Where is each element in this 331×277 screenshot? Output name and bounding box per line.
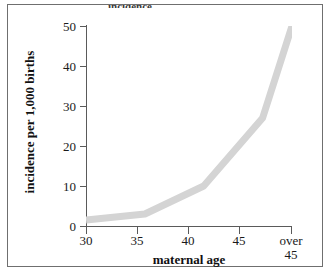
x-tick-label-over-45-line1: over [279, 233, 302, 248]
x-tick-label-40: 40 [166, 234, 210, 248]
incidence-line-series [86, 26, 292, 220]
y-tick-label-40: 40 [50, 60, 76, 73]
x-axis-title: maternal age [86, 253, 292, 267]
y-tick-label-10: 10 [50, 180, 76, 193]
x-axis-line [86, 226, 292, 227]
x-tick-label-35: 35 [115, 234, 159, 248]
x-tick-label-30: 30 [64, 234, 108, 248]
clipped-title-remnant: incidence [108, 5, 168, 8]
y-axis-title: incidence per 1,000 births [23, 37, 37, 207]
chart-figure: incidence 50 40 30 20 10 0 incidence per… [7, 4, 323, 267]
y-tick-label-20: 20 [50, 140, 76, 153]
y-tick-label-0: 0 [50, 220, 76, 233]
y-tick-label-30: 30 [50, 100, 76, 113]
y-tick-label-50: 50 [50, 20, 76, 33]
plot-area [86, 26, 292, 226]
data-line-svg [86, 26, 292, 226]
x-tick-label-45: 45 [217, 234, 261, 248]
